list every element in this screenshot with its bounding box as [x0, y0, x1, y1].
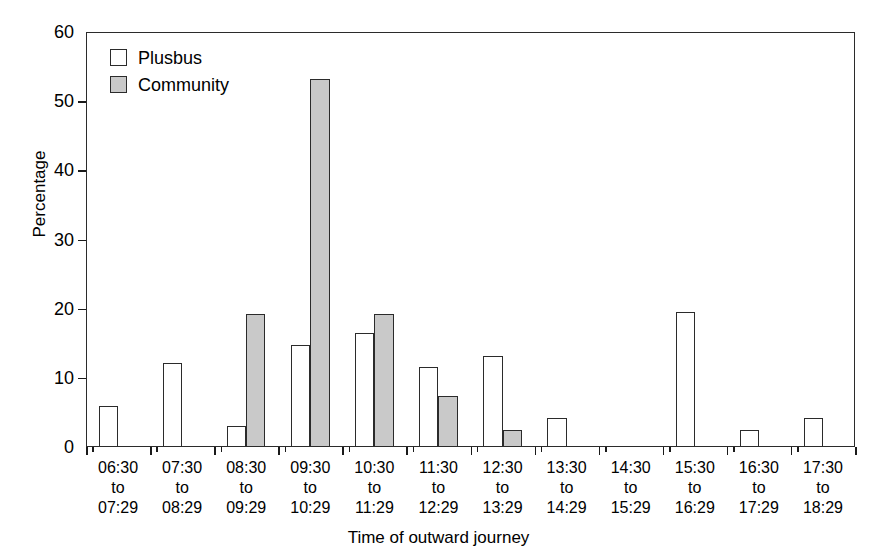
x-category-label-line: 07:29: [86, 498, 150, 518]
bar-community[interactable]: [438, 396, 457, 447]
x-category-label-line: 13:30: [535, 458, 599, 478]
x-tick-mark-minor: [285, 447, 287, 452]
bar-plusbus[interactable]: [676, 312, 695, 447]
x-tick-mark: [278, 447, 280, 455]
x-tick-mark: [471, 447, 473, 455]
bar-community[interactable]: [374, 314, 393, 447]
bar-group: [727, 32, 791, 447]
x-tick-mark: [599, 447, 601, 455]
x-category-label-line: 09:29: [214, 498, 278, 518]
x-category-label-line: to: [86, 478, 150, 498]
x-category-label-line: 16:30: [727, 458, 791, 478]
x-axis-title: Time of outward journey: [0, 528, 877, 548]
x-category-label-line: 12:29: [406, 498, 470, 518]
x-category-label-line: 10:30: [342, 458, 406, 478]
bar-plusbus[interactable]: [419, 367, 438, 447]
bar-plusbus[interactable]: [355, 333, 374, 447]
x-category-label-line: to: [214, 478, 278, 498]
x-tick-mark-minor: [156, 447, 158, 452]
x-tick-mark-minor: [797, 447, 799, 452]
x-category-label: 09:30to10:29: [278, 458, 342, 518]
x-category-label: 11:30to12:29: [406, 458, 470, 518]
x-category-label-line: 09:30: [278, 458, 342, 478]
y-tick-mark: [78, 170, 86, 172]
x-category-label-line: to: [342, 478, 406, 498]
x-tick-mark-minor: [477, 447, 479, 452]
bar-group: [406, 32, 470, 447]
bar-community[interactable]: [503, 430, 522, 447]
y-tick-label: 40: [34, 161, 74, 179]
x-tick-mark-minor: [605, 447, 607, 452]
x-category-label-line: 10:29: [278, 498, 342, 518]
y-tick-label: 20: [34, 300, 74, 318]
bar-community[interactable]: [310, 79, 329, 447]
x-category-label: 13:30to14:29: [535, 458, 599, 518]
x-category-label-line: to: [791, 478, 855, 498]
bar-plusbus[interactable]: [740, 430, 759, 447]
legend-label: Community: [138, 76, 229, 94]
y-tick-mark: [78, 309, 86, 311]
x-tick-mark: [727, 447, 729, 455]
x-tick-mark-minor: [669, 447, 671, 452]
bar-group: [599, 32, 663, 447]
bar-plusbus[interactable]: [547, 418, 566, 447]
bar-plusbus[interactable]: [483, 356, 502, 447]
x-category-label-line: 11:30: [406, 458, 470, 478]
x-category-label: 08:30to09:29: [214, 458, 278, 518]
x-tick-mark: [86, 447, 88, 455]
x-category-label: 06:30to07:29: [86, 458, 150, 518]
y-tick-mark: [78, 378, 86, 380]
bar-group: [535, 32, 599, 447]
x-tick-mark: [535, 447, 537, 455]
legend-swatch-icon: [110, 76, 127, 93]
x-category-label-line: to: [406, 478, 470, 498]
x-tick-mark: [406, 447, 408, 455]
bar-plusbus[interactable]: [227, 426, 246, 447]
bar-plusbus[interactable]: [804, 418, 823, 447]
x-category-label: 16:30to17:29: [727, 458, 791, 518]
x-category-label-line: 11:29: [342, 498, 406, 518]
y-axis-tick-labels: 0102030405060: [28, 0, 74, 559]
bar-plusbus[interactable]: [99, 406, 118, 447]
x-tick-mark-minor: [349, 447, 351, 452]
x-category-label-line: 08:30: [214, 458, 278, 478]
x-tick-mark: [855, 447, 857, 455]
bar-group: [342, 32, 406, 447]
x-category-label-line: 12:30: [471, 458, 535, 478]
bar-group: [663, 32, 727, 447]
x-category-label: 15:30to16:29: [663, 458, 727, 518]
x-category-label: 17:30to18:29: [791, 458, 855, 518]
legend-swatch-icon: [110, 49, 127, 66]
legend-item-plusbus[interactable]: Plusbus: [110, 44, 330, 71]
x-category-label-line: 15:29: [599, 498, 663, 518]
x-tick-mark: [150, 447, 152, 455]
x-category-label: 14:30to15:29: [599, 458, 663, 518]
x-category-label-line: 07:30: [150, 458, 214, 478]
y-tick-label: 60: [34, 23, 74, 41]
legend-item-community[interactable]: Community: [110, 71, 330, 98]
bar-plusbus[interactable]: [291, 345, 310, 447]
bar-group: [471, 32, 535, 447]
bar-community[interactable]: [246, 314, 265, 447]
x-tick-mark: [791, 447, 793, 455]
legend-label: Plusbus: [138, 49, 202, 67]
x-category-label-line: to: [663, 478, 727, 498]
x-category-label: 12:30to13:29: [471, 458, 535, 518]
x-tick-mark-minor: [733, 447, 735, 452]
x-category-label-line: to: [599, 478, 663, 498]
chart-legend: PlusbusCommunity: [110, 44, 330, 98]
x-category-label-line: 13:29: [471, 498, 535, 518]
x-tick-mark-minor: [92, 447, 94, 452]
y-tick-label: 30: [34, 231, 74, 249]
x-category-label-line: 14:30: [599, 458, 663, 478]
x-category-label-line: 06:30: [86, 458, 150, 478]
bar-plusbus[interactable]: [163, 363, 182, 447]
x-category-label-line: 18:29: [791, 498, 855, 518]
bar-chart: Percentage 0102030405060 06:30to07:2907:…: [0, 0, 877, 559]
x-category-label-line: to: [150, 478, 214, 498]
x-tick-mark-minor: [413, 447, 415, 452]
y-tick-label: 50: [34, 92, 74, 110]
x-tick-mark: [342, 447, 344, 455]
x-category-label-line: to: [278, 478, 342, 498]
x-category-label-line: 17:30: [791, 458, 855, 478]
